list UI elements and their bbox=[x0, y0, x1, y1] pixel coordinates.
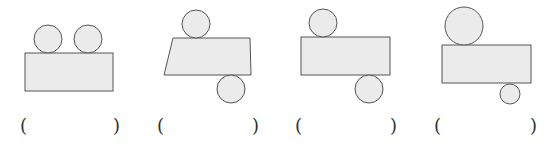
figure-1-rectangle bbox=[25, 53, 113, 91]
figure-4-circle-bottom bbox=[500, 84, 520, 104]
answer-2-open-paren: ( bbox=[157, 117, 164, 135]
answer-4-open-paren: ( bbox=[434, 117, 441, 135]
answer-2-close-paren: ) bbox=[252, 117, 259, 135]
figure-3-circle-top bbox=[309, 9, 337, 37]
figure-2-circle-bottom bbox=[217, 75, 245, 103]
figure-1 bbox=[25, 25, 113, 91]
figure-4-rectangle bbox=[442, 45, 531, 83]
figure-2-trapezoid bbox=[164, 38, 251, 75]
answer-3-close-paren: ) bbox=[390, 117, 397, 135]
figure-4 bbox=[442, 7, 531, 104]
figure-4-circle-top bbox=[445, 7, 483, 45]
figure-3 bbox=[301, 9, 390, 103]
figure-1-circle-right bbox=[74, 25, 102, 53]
answer-3-open-paren: ( bbox=[295, 117, 302, 135]
figure-1-circle-left bbox=[34, 25, 62, 53]
figure-2-circle-top bbox=[182, 10, 210, 38]
figure-3-circle-bottom bbox=[355, 75, 383, 103]
figure-3-rectangle bbox=[301, 37, 390, 75]
answer-1-close-paren: ) bbox=[113, 117, 120, 135]
answer-1-open-paren: ( bbox=[20, 117, 27, 135]
net-diagrams bbox=[0, 0, 549, 147]
figure-2 bbox=[164, 10, 251, 103]
answer-4-close-paren: ) bbox=[530, 117, 537, 135]
